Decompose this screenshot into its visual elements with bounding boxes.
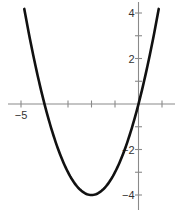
y-tick-label: 2 [128,53,134,65]
parabola-chart: −542−2−4 [0,0,178,211]
x-tick-label: −5 [15,109,28,121]
y-tick-label: −4 [122,189,135,201]
y-tick-label: 4 [128,7,134,19]
